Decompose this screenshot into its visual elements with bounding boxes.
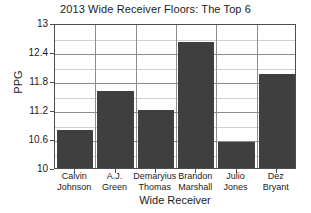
- x-axis-tick-label: DezBryant: [253, 171, 299, 192]
- y-axis-tick-label: 12.4: [2, 48, 48, 58]
- y-axis-tick-mark: [50, 53, 54, 54]
- x-axis-label: Wide Receiver: [54, 194, 296, 206]
- bar-series: [55, 25, 295, 168]
- chart-figure: 2013 Wide Receiver Floors: The Top 6 PPG…: [0, 0, 311, 213]
- y-axis-tick-label: 11.2: [2, 106, 48, 116]
- x-axis-tick-label-line: Bryant: [253, 182, 299, 193]
- y-axis-tick-mark: [50, 169, 54, 170]
- y-axis-tick-mark: [50, 140, 54, 141]
- x-axis-tick-label-line: Dez: [253, 171, 299, 182]
- y-axis-tick-label: 10.6: [2, 135, 48, 145]
- bar[interactable]: [138, 110, 174, 168]
- y-axis-tick-mark: [50, 24, 54, 25]
- y-axis-tick-label: 13: [2, 19, 48, 29]
- bar[interactable]: [57, 130, 93, 168]
- y-axis-tick-label: 10: [2, 164, 48, 174]
- bar[interactable]: [259, 74, 295, 168]
- y-axis-tick-mark: [50, 82, 54, 83]
- bar[interactable]: [178, 42, 214, 168]
- bar[interactable]: [97, 91, 133, 168]
- y-axis-tick-mark: [50, 111, 54, 112]
- y-axis-tick-label: 11.8: [2, 77, 48, 87]
- plot-area: [54, 24, 296, 169]
- bar[interactable]: [218, 142, 254, 168]
- chart-title: 2013 Wide Receiver Floors: The Top 6: [0, 3, 311, 15]
